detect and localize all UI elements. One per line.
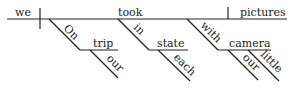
prep2-diagonal [118,19,149,50]
prep1-word: On [61,22,82,43]
prep3-modifier2-word: little [258,48,286,76]
sentence-diagram: we took pictures On trip our in state ea… [0,0,294,90]
prep2-modifier-word: each [171,51,199,79]
verb-word: took [118,6,143,19]
prep2-object-word: state [157,37,185,50]
prep1-modifier-word: our [104,52,127,75]
subject-word: we [15,6,31,19]
prep3-word: with [198,19,224,45]
prep1-object-word: trip [93,37,113,50]
prep3-object-word: camera [229,37,271,50]
object-word: pictures [240,6,286,19]
